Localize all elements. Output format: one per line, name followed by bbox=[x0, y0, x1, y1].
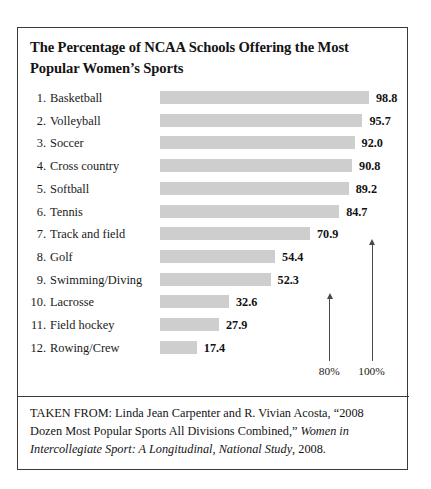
row-category-label: Track and field bbox=[50, 227, 125, 242]
row-category-label: Basketball bbox=[50, 91, 102, 106]
row-bar bbox=[160, 182, 349, 195]
row-rank: 8. bbox=[24, 250, 46, 265]
row-category-label: Softball bbox=[50, 182, 89, 197]
chart-row: 4.Cross country90.8 bbox=[18, 158, 409, 180]
row-bar bbox=[160, 159, 352, 172]
axis-label-100: 100% bbox=[352, 365, 392, 378]
row-value-label: 32.6 bbox=[236, 295, 257, 309]
chart-row: 3.Soccer92.0 bbox=[18, 135, 409, 157]
row-value-label: 95.7 bbox=[369, 114, 390, 128]
row-value-label: 17.4 bbox=[204, 341, 225, 355]
chart-row: 12.Rowing/Crew17.4 bbox=[18, 340, 409, 362]
row-rank: 9. bbox=[24, 273, 46, 288]
row-bar bbox=[160, 273, 271, 286]
row-rank: 7. bbox=[24, 227, 46, 242]
row-value-label: 84.7 bbox=[346, 205, 367, 219]
chart-card: The Percentage of NCAA Schools Offering … bbox=[17, 27, 408, 470]
row-bar bbox=[160, 114, 362, 127]
row-value-label: 90.8 bbox=[359, 159, 380, 173]
row-category-label: Golf bbox=[50, 250, 73, 265]
row-rank: 2. bbox=[24, 114, 46, 129]
divider bbox=[18, 396, 409, 397]
row-rank: 11. bbox=[24, 318, 46, 333]
bar-chart-plot: 1.Basketball98.82.Volleyball95.73.Soccer… bbox=[18, 28, 409, 396]
source-citation: TAKEN FROM: Linda Jean Carpenter and R. … bbox=[30, 405, 396, 459]
chart-row: 9.Swimming/Diving52.3 bbox=[18, 272, 409, 294]
row-rank: 1. bbox=[24, 91, 46, 106]
row-category-label: Volleyball bbox=[50, 114, 101, 129]
row-bar bbox=[160, 91, 369, 104]
row-value-label: 54.4 bbox=[282, 250, 303, 264]
row-category-label: Swimming/Diving bbox=[50, 273, 142, 288]
row-rank: 6. bbox=[24, 205, 46, 220]
axis-arrow-100 bbox=[372, 244, 373, 361]
row-category-label: Rowing/Crew bbox=[50, 341, 120, 356]
row-bar bbox=[160, 341, 197, 354]
row-value-label: 52.3 bbox=[278, 273, 299, 287]
row-category-label: Tennis bbox=[50, 205, 83, 220]
row-rank: 5. bbox=[24, 182, 46, 197]
row-rank: 10. bbox=[24, 295, 46, 310]
row-rank: 4. bbox=[24, 159, 46, 174]
row-value-label: 27.9 bbox=[226, 318, 247, 332]
axis-label-80: 80% bbox=[309, 365, 349, 378]
chart-row: 7.Track and field70.9 bbox=[18, 226, 409, 248]
chart-row: 1.Basketball98.8 bbox=[18, 90, 409, 112]
row-bar bbox=[160, 136, 355, 149]
source-suffix: , 2008. bbox=[292, 442, 326, 456]
row-category-label: Lacrosse bbox=[50, 295, 94, 310]
axis-arrow-80 bbox=[329, 298, 330, 361]
chart-row: 2.Volleyball95.7 bbox=[18, 113, 409, 135]
row-bar bbox=[160, 205, 339, 218]
chart-row: 10.Lacrosse32.6 bbox=[18, 294, 409, 316]
row-value-label: 70.9 bbox=[317, 227, 338, 241]
row-bar bbox=[160, 250, 275, 263]
row-category-label: Field hockey bbox=[50, 318, 114, 333]
row-bar bbox=[160, 318, 219, 331]
row-rank: 3. bbox=[24, 136, 46, 151]
row-bar bbox=[160, 295, 229, 308]
chart-row: 6.Tennis84.7 bbox=[18, 204, 409, 226]
row-value-label: 89.2 bbox=[356, 182, 377, 196]
chart-row: 5.Softball89.2 bbox=[18, 181, 409, 203]
chart-row: 8.Golf54.4 bbox=[18, 249, 409, 271]
chart-row: 11.Field hockey27.9 bbox=[18, 317, 409, 339]
row-category-label: Soccer bbox=[50, 136, 84, 151]
row-rank: 12. bbox=[24, 341, 46, 356]
row-category-label: Cross country bbox=[50, 159, 119, 174]
row-value-label: 92.0 bbox=[362, 136, 383, 150]
row-bar bbox=[160, 227, 310, 240]
row-value-label: 98.8 bbox=[376, 91, 397, 105]
